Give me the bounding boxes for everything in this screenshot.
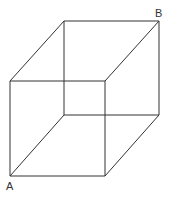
cube-diagram: A B [0,0,171,200]
top-right-connector [105,21,159,81]
front-face [10,81,105,176]
top-left-connector [10,21,64,81]
back-face [64,21,159,115]
bottom-right-connector [105,115,159,176]
connecting-edges [10,21,159,176]
vertex-label-a: A [6,180,14,192]
bottom-left-connector [10,115,64,176]
vertex-label-b: B [155,7,162,19]
